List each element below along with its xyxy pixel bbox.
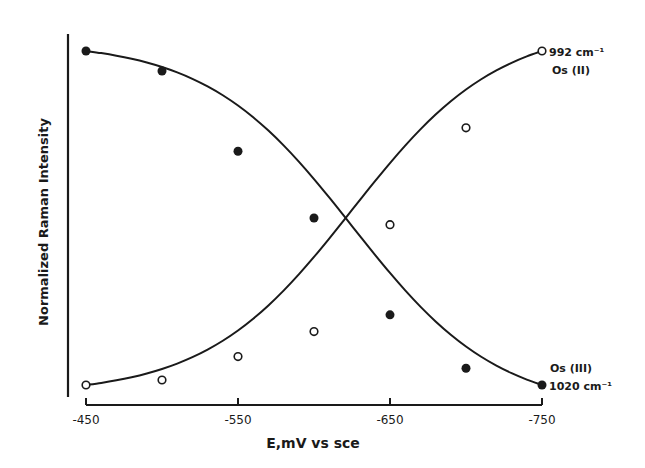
data-point-open (462, 124, 470, 132)
data-point-open (386, 221, 394, 229)
data-point-filled (538, 381, 547, 390)
x-tick-label: -550 (224, 413, 251, 427)
data-point-filled (158, 67, 167, 76)
data-point-filled (310, 214, 319, 223)
x-axis-label: E,mV vs sce (266, 435, 360, 451)
chart-canvas: -450-550-650-750 Normalized Raman Intens… (0, 0, 645, 468)
x-tick-label: -450 (72, 413, 99, 427)
data-point-open (310, 328, 318, 336)
data-point-open (538, 47, 546, 55)
annotation-os2: Os (II) (552, 64, 590, 77)
data-point-open (234, 353, 242, 361)
x-tick-label: -750 (528, 413, 555, 427)
data-point-filled (386, 310, 395, 319)
annotation-os3: Os (III) (550, 362, 592, 375)
data-point-filled (462, 364, 471, 373)
data-point-open (158, 376, 166, 384)
series-os3-markers (82, 47, 547, 390)
y-axis-label: Normalized Raman Intensity (36, 118, 51, 326)
data-point-filled (234, 147, 243, 156)
x-tick-label: -650 (376, 413, 403, 427)
x-axis-tick-labels: -450-550-650-750 (72, 413, 555, 427)
data-point-open (82, 381, 90, 389)
annotation-992: 992 cm⁻¹ (549, 46, 605, 59)
data-point-filled (82, 47, 91, 56)
annotation-1020: 1020 cm⁻¹ (549, 380, 612, 393)
